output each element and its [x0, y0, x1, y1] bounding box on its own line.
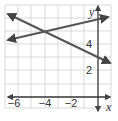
- y-tick-label: 2: [86, 64, 92, 76]
- x-tick-label: −4: [39, 97, 52, 109]
- coordinate-plane: −6 −4 −2 4 2 x y: [0, 0, 118, 121]
- line-falling: [8, 14, 110, 63]
- x-tick-label: −2: [65, 97, 78, 109]
- x-tick-label: −6: [8, 97, 21, 109]
- y-tick-label: 4: [86, 38, 92, 50]
- x-axis-label: x: [105, 100, 112, 114]
- y-axis-label: y: [88, 5, 95, 19]
